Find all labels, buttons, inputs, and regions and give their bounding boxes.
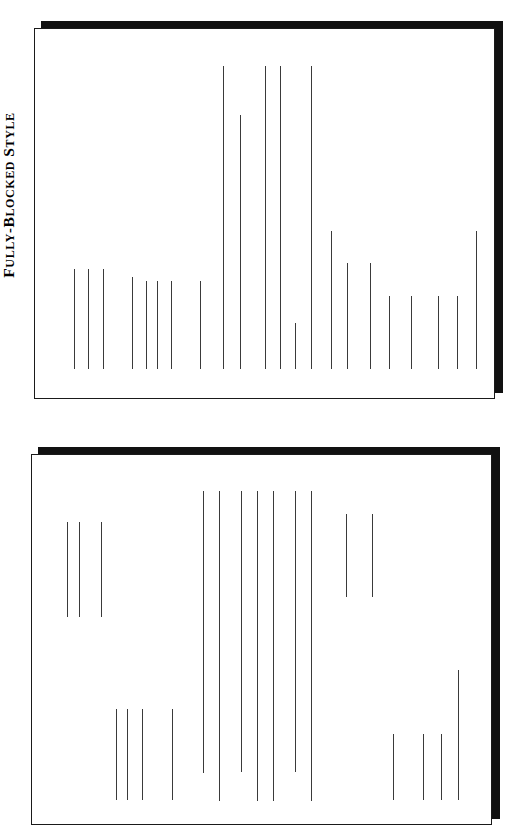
- letter-text-line: [88, 269, 89, 369]
- letter-sheet-semi-blocked: [31, 454, 492, 825]
- letter-text-line: [265, 66, 266, 369]
- letter-text-line: [132, 277, 133, 369]
- letter-text-line: [257, 491, 258, 801]
- letter-sheet-fully-blocked: [34, 28, 495, 399]
- panel-semi-blocked: SEMI-BLOCKED STYLE: [0, 420, 513, 829]
- letter-text-line: [346, 514, 347, 597]
- letter-text-line: [219, 491, 220, 801]
- panel-caption-fully-blocked: FULLY-BLOCKED STYLE: [0, 45, 18, 345]
- sheet-shadow-right-bar: [495, 21, 503, 393]
- letter-text-line: [393, 734, 394, 800]
- letter-text-line: [127, 709, 128, 800]
- letter-text-line: [203, 491, 204, 773]
- letter-text-line: [172, 709, 173, 800]
- letter-text-line: [438, 296, 439, 369]
- letter-text-line: [280, 66, 281, 369]
- letter-text-line: [457, 296, 458, 369]
- letter-text-line: [200, 281, 201, 369]
- letter-text-line: [370, 263, 371, 369]
- sheet-shadow-right-bar: [492, 447, 500, 819]
- letter-text-line: [273, 491, 274, 801]
- letter-text-line: [295, 323, 296, 369]
- letter-text-line: [423, 734, 424, 800]
- letter-text-line: [295, 491, 296, 772]
- letter-text-line: [411, 296, 412, 369]
- letter-text-line: [116, 709, 117, 800]
- letter-text-line: [458, 670, 459, 800]
- letter-text-line: [311, 66, 312, 369]
- letter-text-line: [311, 491, 312, 801]
- letter-text-line: [142, 709, 143, 800]
- letter-text-line: [240, 115, 241, 369]
- letter-text-line: [241, 491, 242, 772]
- letter-text-line: [79, 522, 80, 617]
- letter-text-line: [389, 296, 390, 369]
- letter-text-line: [441, 734, 442, 800]
- letter-text-line: [103, 269, 104, 369]
- letter-text-line: [372, 514, 373, 597]
- letter-text-line: [347, 263, 348, 369]
- letter-text-line: [476, 231, 477, 369]
- panel-fully-blocked: FULLY-BLOCKED STYLE: [0, 0, 513, 420]
- letter-text-line: [146, 281, 147, 369]
- letter-text-line: [101, 522, 102, 617]
- letter-text-line: [331, 231, 332, 369]
- caption-text-fully-blocked: FULLY-BLOCKED STYLE: [1, 112, 17, 277]
- letter-text-line: [171, 281, 172, 369]
- letter-text-line: [157, 281, 158, 369]
- letter-text-line: [67, 522, 68, 617]
- letter-text-line: [74, 269, 75, 369]
- letter-text-line: [223, 66, 224, 369]
